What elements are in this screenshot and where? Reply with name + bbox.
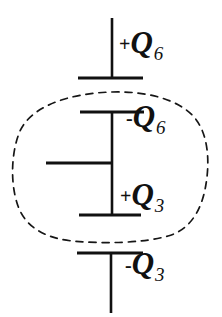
charge-symbol-top: Q (130, 25, 152, 60)
charge-subscript-second: 6 (155, 117, 166, 138)
charge-label-bottom-plate: -Q3 (125, 248, 165, 284)
charge-label-top-plate: +Q6 (119, 27, 163, 63)
charge-symbol-third: Q (131, 177, 153, 212)
charge-sign-second: - (126, 107, 133, 129)
charge-sign-bottom: - (125, 254, 132, 276)
charge-label-second-plate: -Q6 (126, 101, 166, 137)
charge-sign-top: + (119, 33, 130, 55)
charge-symbol-bottom: Q (132, 246, 154, 281)
diagram-canvas (0, 0, 222, 317)
charge-subscript-top: 6 (153, 43, 164, 64)
charge-subscript-bottom: 3 (154, 264, 165, 285)
gaussian-surface-dashed-curve (13, 92, 208, 243)
capacitor-charge-diagram: +Q6 -Q6 +Q3 -Q3 (0, 0, 222, 317)
charge-subscript-third: 3 (154, 195, 165, 216)
charge-sign-third: + (120, 185, 131, 207)
charge-label-third-plate: +Q3 (120, 179, 164, 215)
charge-symbol-second: Q (133, 99, 155, 134)
